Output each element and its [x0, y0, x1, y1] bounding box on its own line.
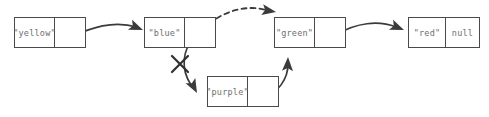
node-value-cell: "green" — [275, 18, 315, 47]
edge-green-to-red — [336, 20, 406, 36]
node-next-cell — [315, 18, 345, 47]
list-node-purple[interactable]: "purple" — [207, 76, 279, 107]
node-value-cell: "blue" — [145, 18, 185, 47]
list-node-red[interactable]: "red" null — [408, 17, 480, 48]
node-next-cell — [55, 18, 85, 47]
edge-path-green-to-red — [338, 23, 396, 34]
arrowhead-blue-to-green-new — [261, 4, 277, 17]
cross-out-icon — [172, 56, 188, 72]
arrowhead-green-to-red — [389, 20, 406, 35]
node-value-cell: "red" — [409, 18, 446, 47]
node-value-cell: "purple" — [208, 77, 248, 106]
linked-list-diagram: "yellow" "blue" "green" "red" null "purp… — [0, 0, 489, 117]
list-node-yellow[interactable]: "yellow" — [14, 17, 86, 48]
arrowhead-yellow-to-blue — [128, 20, 145, 35]
node-next-cell — [248, 77, 278, 106]
node-next-null-cell: null — [446, 18, 479, 47]
node-value-cell: "yellow" — [15, 18, 55, 47]
list-node-green[interactable]: "green" — [274, 17, 346, 48]
list-node-blue[interactable]: "blue" — [144, 17, 216, 48]
node-next-cell — [185, 18, 215, 47]
